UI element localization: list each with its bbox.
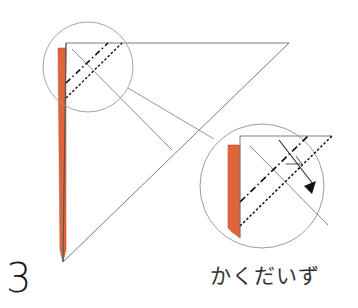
enlarged-view bbox=[200, 124, 332, 248]
crease-line bbox=[72, 49, 172, 150]
detail-circle-small bbox=[43, 22, 133, 112]
origami-diagram bbox=[0, 0, 358, 308]
colored-paper-strip-enlarged bbox=[228, 145, 240, 238]
connector-line-top bbox=[128, 88, 214, 139]
enlarged-view-caption: かくだいず bbox=[210, 266, 320, 287]
step-number: 3 bbox=[6, 258, 31, 298]
